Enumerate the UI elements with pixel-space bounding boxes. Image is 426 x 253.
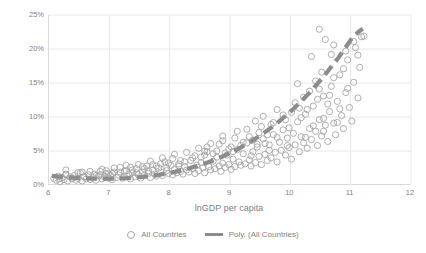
legend-label: Poly. (All Countries) bbox=[229, 230, 299, 239]
legend-item-poly-all-countries[interactable]: Poly. (All Countries) bbox=[205, 230, 299, 239]
legend-label: All Countries bbox=[141, 230, 186, 239]
x-axis-tick: 8 bbox=[157, 189, 181, 197]
scatter-chart: Business Servics Employment Share 0%5%10… bbox=[0, 0, 426, 253]
plot-area bbox=[48, 15, 410, 185]
x-axis-tick: 11 bbox=[338, 189, 362, 197]
dashed-line-marker-icon bbox=[205, 233, 223, 236]
x-axis-tick: 9 bbox=[217, 189, 241, 197]
y-axis-tick: 10% bbox=[10, 113, 44, 121]
legend-item-all-countries[interactable]: All Countries bbox=[127, 230, 186, 239]
y-axis-tick: 15% bbox=[10, 79, 44, 87]
x-axis-tick: 7 bbox=[96, 189, 120, 197]
y-axis-tick: 25% bbox=[10, 11, 44, 19]
trendline-poly-all-countries bbox=[49, 15, 411, 185]
x-axis-tick: 6 bbox=[36, 189, 60, 197]
y-axis-tick: 20% bbox=[10, 45, 44, 53]
chart-legend: All Countries Poly. (All Countries) bbox=[0, 230, 426, 239]
y-axis-tick: 0% bbox=[10, 181, 44, 189]
x-axis-tick: 10 bbox=[277, 189, 301, 197]
open-circle-marker-icon bbox=[127, 231, 135, 239]
x-axis-tick: 12 bbox=[398, 189, 422, 197]
x-axis-title: lnGDP per capita bbox=[48, 203, 410, 213]
y-axis-tick: 5% bbox=[10, 147, 44, 155]
